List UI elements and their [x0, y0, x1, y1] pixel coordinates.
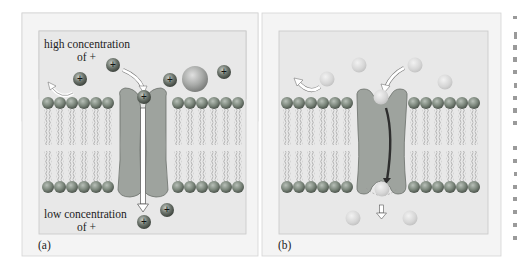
ion-positive: [217, 65, 231, 79]
high-concentration-label-line2: of +: [77, 51, 96, 63]
low-concentration-label-line2: of +: [77, 221, 96, 233]
ion-positive: [73, 72, 87, 86]
solute-molecule: [352, 58, 367, 73]
ion-positive: [163, 73, 177, 87]
solute-molecule: [320, 72, 335, 87]
high-concentration-label: high concentration: [44, 38, 130, 51]
membrane-transport-diagram: +: [0, 0, 519, 269]
solute-molecule: [346, 211, 361, 226]
ion-positive: [160, 203, 174, 217]
panel-b-label: (b): [278, 239, 292, 252]
ion-positive: [137, 215, 151, 229]
panel-a-label: (a): [38, 239, 51, 252]
ion-positive: [137, 90, 151, 104]
solute-molecule: [408, 58, 423, 73]
carrier-protein: [357, 89, 407, 194]
solute-molecule: [438, 75, 453, 90]
solute-molecule-bound: [374, 90, 389, 105]
ion-positive: [106, 58, 120, 72]
panel-a: high concentration of + low concentratio…: [22, 13, 258, 256]
solute-molecule-released: [375, 182, 390, 197]
large-molecule: [182, 66, 208, 92]
cropped-body-text-edge: [513, 16, 517, 240]
low-concentration-label: low concentration: [44, 208, 127, 220]
solute-molecule: [403, 211, 418, 226]
panel-b: (b): [262, 13, 501, 256]
